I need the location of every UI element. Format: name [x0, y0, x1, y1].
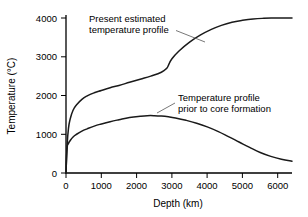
- x-tick-label-2000: 2000: [126, 180, 147, 191]
- y-tick-label-3000: 3000: [36, 51, 57, 62]
- x-axis-title: Depth (km): [153, 198, 202, 209]
- x-tick-label-1000: 1000: [91, 180, 112, 191]
- lower-annotation-line-2: prior to core formation: [178, 103, 271, 114]
- y-tick-label-0: 0: [52, 168, 57, 179]
- x-tick-label-6000: 6000: [267, 180, 288, 191]
- x-tick-label-5000: 5000: [232, 180, 253, 191]
- x-axis-ticks: [66, 173, 278, 178]
- upper-annotation-line-1: Present estimated: [89, 13, 166, 24]
- y-tick-label-4000: 4000: [36, 13, 57, 24]
- annotation-lower-curve: Temperature profile prior to core format…: [157, 92, 271, 114]
- y-axis-ticks: [61, 18, 66, 173]
- x-tick-label-4000: 4000: [197, 180, 218, 191]
- x-axis-tick-labels: 0 1000 2000 3000 4000 5000 6000: [63, 180, 288, 191]
- annotation-upper-curve: Present estimated temperature profile: [89, 13, 205, 42]
- y-axis-tick-labels: 4000 3000 2000 1000 0: [36, 13, 57, 179]
- lower-annotation-leader-line: [157, 103, 175, 113]
- lower-annotation-line-1: Temperature profile: [178, 92, 260, 103]
- y-axis-title: Temperature (°C): [6, 58, 17, 135]
- y-tick-label-1000: 1000: [36, 129, 57, 140]
- y-tick-label-2000: 2000: [36, 90, 57, 101]
- chart-figure: 4000 3000 2000 1000 0 0 1000 2000 3000 4…: [0, 0, 308, 217]
- upper-annotation-leader-line: [176, 31, 205, 43]
- x-tick-label-3000: 3000: [161, 180, 182, 191]
- upper-annotation-line-2: temperature profile: [89, 24, 169, 35]
- series-temperature-profile-prior-to-core-formation: [66, 116, 292, 173]
- temperature-depth-chart: 4000 3000 2000 1000 0 0 1000 2000 3000 4…: [0, 0, 308, 217]
- x-tick-label-0: 0: [63, 180, 68, 191]
